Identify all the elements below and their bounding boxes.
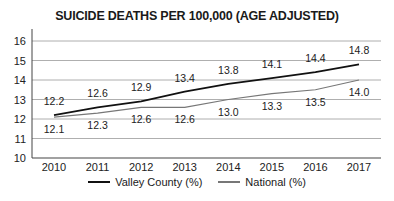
data-label: 13.3: [262, 100, 283, 112]
x-tick-label: 2013: [172, 161, 196, 173]
y-tick-label: 13: [14, 94, 26, 106]
data-label: 12.6: [174, 113, 195, 125]
x-tick-label: 2017: [347, 161, 371, 173]
x-tick-label: 2016: [303, 161, 327, 173]
legend-item-valley-county: Valley County (%): [88, 176, 202, 188]
legend: Valley County (%) National (%): [0, 176, 394, 188]
x-tick-label: 2010: [42, 161, 66, 173]
data-label: 12.3: [87, 119, 108, 131]
data-label: 14.8: [349, 44, 370, 56]
y-tick-label: 10: [14, 152, 26, 164]
data-label: 14.0: [349, 86, 370, 98]
y-tick-label: 12: [14, 113, 26, 125]
data-label: 12.2: [44, 95, 65, 107]
line-chart: SUICIDE DEATHS PER 100,000 (AGE ADJUSTED…: [0, 0, 394, 201]
data-label: 13.0: [218, 106, 239, 118]
legend-swatch-national: [218, 181, 240, 183]
data-label: 13.8: [218, 64, 239, 76]
data-label: 14.4: [305, 52, 326, 64]
plot-area: 1011121314151620102011201220132014201520…: [0, 0, 394, 201]
x-tick-label: 2011: [86, 161, 110, 173]
legend-swatch-valley-county: [88, 181, 110, 183]
y-tick-label: 11: [15, 133, 26, 145]
data-label: 12.1: [44, 123, 65, 135]
legend-label-national: National (%): [245, 176, 306, 188]
data-label: 12.9: [131, 81, 152, 93]
legend-item-national: National (%): [218, 176, 306, 188]
data-label: 14.1: [262, 58, 283, 70]
y-tick-label: 16: [14, 35, 26, 47]
y-tick-label: 15: [14, 55, 26, 67]
data-label: 12.6: [131, 113, 152, 125]
x-tick-label: 2015: [260, 161, 284, 173]
data-label: 13.4: [174, 72, 195, 84]
data-label: 12.6: [87, 87, 108, 99]
x-tick-label: 2012: [129, 161, 153, 173]
legend-label-valley-county: Valley County (%): [115, 176, 202, 188]
y-tick-label: 14: [14, 74, 26, 86]
x-tick-label: 2014: [216, 161, 240, 173]
data-label: 13.5: [305, 96, 326, 108]
